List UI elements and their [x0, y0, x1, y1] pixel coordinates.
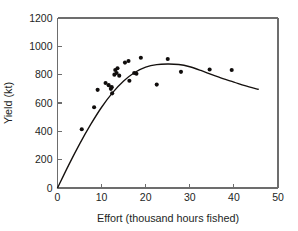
tick-marks-group — [58, 18, 279, 188]
data-point — [110, 91, 114, 95]
data-point — [80, 127, 84, 131]
x-tick-label: 30 — [184, 191, 196, 203]
x-tick-label: 40 — [228, 191, 240, 203]
y-tick-label: 800 — [35, 68, 53, 80]
data-point — [208, 68, 212, 72]
data-points-group — [80, 56, 234, 132]
x-axis-title: Effort (thousand hours fished) — [97, 212, 239, 224]
y-axis-tick-labels: 020040060080010001200 — [29, 12, 53, 194]
y-axis-title: Yield (kt) — [2, 82, 14, 124]
data-point — [123, 61, 127, 65]
data-point — [115, 66, 119, 70]
fitted-curve — [58, 64, 259, 188]
y-tick-label: 1000 — [29, 40, 53, 52]
data-point — [155, 83, 159, 87]
data-point — [134, 72, 138, 76]
y-tick-label: 0 — [47, 182, 53, 194]
data-point — [96, 88, 100, 92]
y-tick-label: 600 — [35, 97, 53, 109]
chart-canvas: 020040060080010001200 01020304050 Effort… — [0, 0, 298, 231]
y-tick-label: 400 — [35, 125, 53, 137]
data-point — [179, 70, 183, 74]
data-point — [110, 85, 114, 89]
x-tick-label: 10 — [96, 191, 108, 203]
axes-group — [58, 18, 279, 188]
x-tick-label: 20 — [140, 191, 152, 203]
data-point — [127, 79, 131, 83]
data-point — [139, 56, 143, 60]
data-point — [126, 59, 130, 63]
x-tick-label: 50 — [272, 191, 284, 203]
x-tick-label: 0 — [55, 191, 61, 203]
data-point — [230, 68, 234, 72]
x-axis-tick-labels: 01020304050 — [55, 191, 284, 203]
data-point — [117, 74, 121, 78]
y-tick-label: 200 — [35, 153, 53, 165]
y-tick-label: 1200 — [29, 12, 53, 24]
yield-effort-scatter-figure: 020040060080010001200 01020304050 Effort… — [0, 0, 298, 231]
data-point — [92, 105, 96, 109]
data-point — [166, 57, 170, 61]
